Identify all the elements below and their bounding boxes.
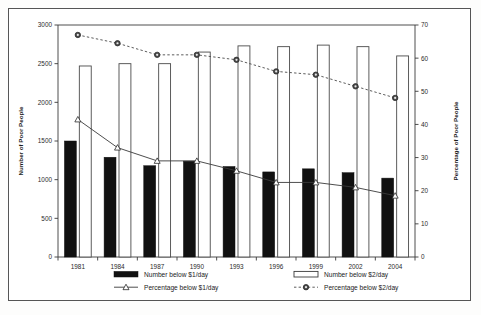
- chart-legend: Number below $1/dayNumber below $2/dayPe…: [114, 271, 399, 292]
- x-tick-label: 1993: [229, 263, 244, 270]
- bar-2-dollar-day: [357, 47, 369, 257]
- legend-item-number-2-dollar: Number below $2/day: [294, 271, 389, 279]
- bars-number-below-1-dollar-day: [64, 141, 393, 257]
- pct-2-dollar-marker-center: [156, 54, 158, 56]
- figure-border: 050010001500200025003000 010203040506070…: [8, 8, 471, 301]
- y-axis-left-title: Number of Poor People: [17, 106, 24, 175]
- legend-item-number-1-dollar: Number below $1/day: [114, 271, 209, 279]
- bar-2-dollar-day: [397, 56, 409, 257]
- y-left-tick-label: 2500: [38, 60, 53, 67]
- dual-axis-bar-line-chart: 050010001500200025003000 010203040506070…: [9, 9, 470, 300]
- y-right-tick-label: 10: [421, 220, 429, 227]
- bar-1-dollar-day: [183, 161, 195, 257]
- legend-swatch-open-bar: [294, 271, 318, 277]
- bar-2-dollar-day: [79, 66, 91, 257]
- legend-item-percentage-2-dollar: Percentage below $2/day: [294, 284, 399, 292]
- y-right-tick-label: 70: [421, 21, 429, 28]
- x-tick-label: 1990: [190, 263, 205, 270]
- pct-2-dollar-marker-center: [275, 70, 277, 72]
- pct-2-dollar-marker-center: [77, 34, 79, 36]
- chart-figure: 050010001500200025003000 010203040506070…: [0, 0, 481, 315]
- x-tick-label: 1981: [71, 263, 86, 270]
- y-right-tick-label: 0: [421, 253, 425, 260]
- legend-label: Percentage below $2/day: [324, 284, 399, 292]
- pct-2-dollar-marker-center: [196, 54, 198, 56]
- y-left-tick-label: 1000: [38, 176, 53, 183]
- y-right-tick-label: 40: [421, 121, 429, 128]
- bar-1-dollar-day: [144, 166, 156, 257]
- pct-2-dollar-marker-center: [235, 59, 237, 61]
- bar-1-dollar-day: [64, 141, 76, 257]
- legend-circle-marker-center: [305, 286, 307, 288]
- y-left-tick-label: 1500: [38, 137, 53, 144]
- y-axis-left-ticks: 050010001500200025003000: [38, 21, 58, 260]
- pct-2-dollar-marker-center: [354, 85, 356, 87]
- x-tick-label: 2002: [348, 263, 363, 270]
- bar-1-dollar-day: [342, 173, 354, 257]
- y-axis-right-title: Percentage of Poor People: [452, 101, 459, 180]
- x-axis-ticks: 198119841987199019931996199920022004: [58, 257, 415, 270]
- x-tick-label: 1999: [309, 263, 324, 270]
- bar-2-dollar-day: [119, 64, 131, 257]
- bar-2-dollar-day: [198, 52, 210, 257]
- y-right-tick-label: 30: [421, 154, 429, 161]
- y-right-tick-label: 20: [421, 187, 429, 194]
- x-tick-label: 2004: [388, 263, 403, 270]
- y-left-tick-label: 3000: [38, 21, 53, 28]
- bar-1-dollar-day: [223, 167, 235, 257]
- bar-2-dollar-day: [159, 64, 171, 257]
- legend-label: Percentage below $1/day: [144, 284, 219, 292]
- bar-1-dollar-day: [104, 157, 116, 257]
- y-left-tick-label: 2000: [38, 99, 53, 106]
- y-left-tick-label: 500: [41, 215, 52, 222]
- legend-label: Number below $1/day: [144, 271, 209, 279]
- legend-item-percentage-1-dollar: Percentage below $1/day: [114, 284, 219, 292]
- pct-2-dollar-marker-center: [116, 42, 118, 44]
- legend-label: Number below $2/day: [324, 271, 389, 279]
- legend-swatch-filled-bar: [114, 271, 138, 277]
- pct-2-dollar-marker-center: [394, 97, 396, 99]
- pct-2-dollar-marker-center: [315, 74, 317, 76]
- bar-2-dollar-day: [238, 46, 250, 257]
- y-left-tick-label: 0: [48, 253, 52, 260]
- bar-2-dollar-day: [278, 47, 290, 257]
- y-axis-right-ticks: 010203040506070: [415, 21, 429, 260]
- x-tick-label: 1996: [269, 263, 284, 270]
- y-right-tick-label: 60: [421, 55, 429, 62]
- y-right-tick-label: 50: [421, 88, 429, 95]
- x-tick-label: 1984: [110, 263, 125, 270]
- x-tick-label: 1987: [150, 263, 165, 270]
- bar-1-dollar-day: [382, 178, 394, 257]
